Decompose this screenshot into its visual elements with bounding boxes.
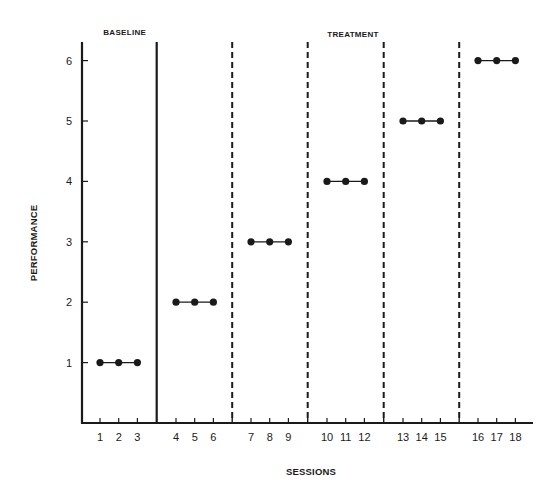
- data-point: [474, 57, 481, 64]
- x-tick-label: 14: [416, 431, 428, 443]
- data-point: [247, 238, 254, 245]
- x-tick-label: 9: [285, 431, 291, 443]
- y-tick-label: 1: [66, 357, 72, 369]
- data-point: [115, 359, 122, 366]
- changing-criterion-chart: BASELINETREATMENT 123456 123456789101112…: [0, 0, 556, 501]
- series-group: [172, 299, 217, 306]
- series-group: [399, 117, 444, 124]
- x-tick-label: 6: [210, 431, 216, 443]
- x-tick-label: 13: [397, 431, 409, 443]
- x-tick-label: 8: [267, 431, 273, 443]
- data-point: [266, 238, 273, 245]
- x-tick-label: 10: [321, 431, 333, 443]
- x-tick-label: 17: [491, 431, 503, 443]
- data-point: [361, 178, 368, 185]
- data-point: [134, 359, 141, 366]
- phase-change-lines: [157, 42, 460, 423]
- y-tick-label: 3: [66, 236, 72, 248]
- x-tick-label: 4: [173, 431, 179, 443]
- series-group: [247, 238, 292, 245]
- x-tick-label: 2: [116, 431, 122, 443]
- series-group: [96, 359, 141, 366]
- data-point: [96, 359, 103, 366]
- x-tick-label: 15: [434, 431, 446, 443]
- series-group: [474, 57, 519, 64]
- data-point: [493, 57, 500, 64]
- y-tick-label: 2: [66, 296, 72, 308]
- x-axis-title: SESSIONS: [286, 466, 336, 477]
- data-point: [210, 299, 217, 306]
- data-point: [512, 57, 519, 64]
- x-tick-label: 5: [192, 431, 198, 443]
- x-tick-label: 7: [248, 431, 254, 443]
- series-group: [323, 178, 368, 185]
- phase-label-treatment: TREATMENT: [327, 30, 378, 39]
- data-point: [172, 299, 179, 306]
- y-axis-title: PERFORMANCE: [28, 205, 39, 282]
- phase-labels: BASELINETREATMENT: [103, 28, 378, 39]
- phase-label-baseline: BASELINE: [103, 28, 146, 37]
- data-point: [191, 299, 198, 306]
- y-tick-label: 5: [66, 115, 72, 127]
- x-tick-label: 16: [472, 431, 484, 443]
- data-point: [342, 178, 349, 185]
- x-tick-label: 11: [340, 431, 351, 443]
- x-tick-label: 1: [97, 431, 103, 443]
- data-point: [285, 238, 292, 245]
- y-tick-label: 4: [66, 175, 72, 187]
- data-point: [418, 117, 425, 124]
- x-tick-label: 12: [358, 431, 370, 443]
- data-point: [437, 117, 444, 124]
- x-tick-label: 3: [134, 431, 140, 443]
- y-tick-label: 6: [66, 55, 72, 67]
- y-axis: 123456: [66, 42, 88, 424]
- data-point: [399, 117, 406, 124]
- data-point: [323, 178, 330, 185]
- x-tick-label: 18: [509, 431, 521, 443]
